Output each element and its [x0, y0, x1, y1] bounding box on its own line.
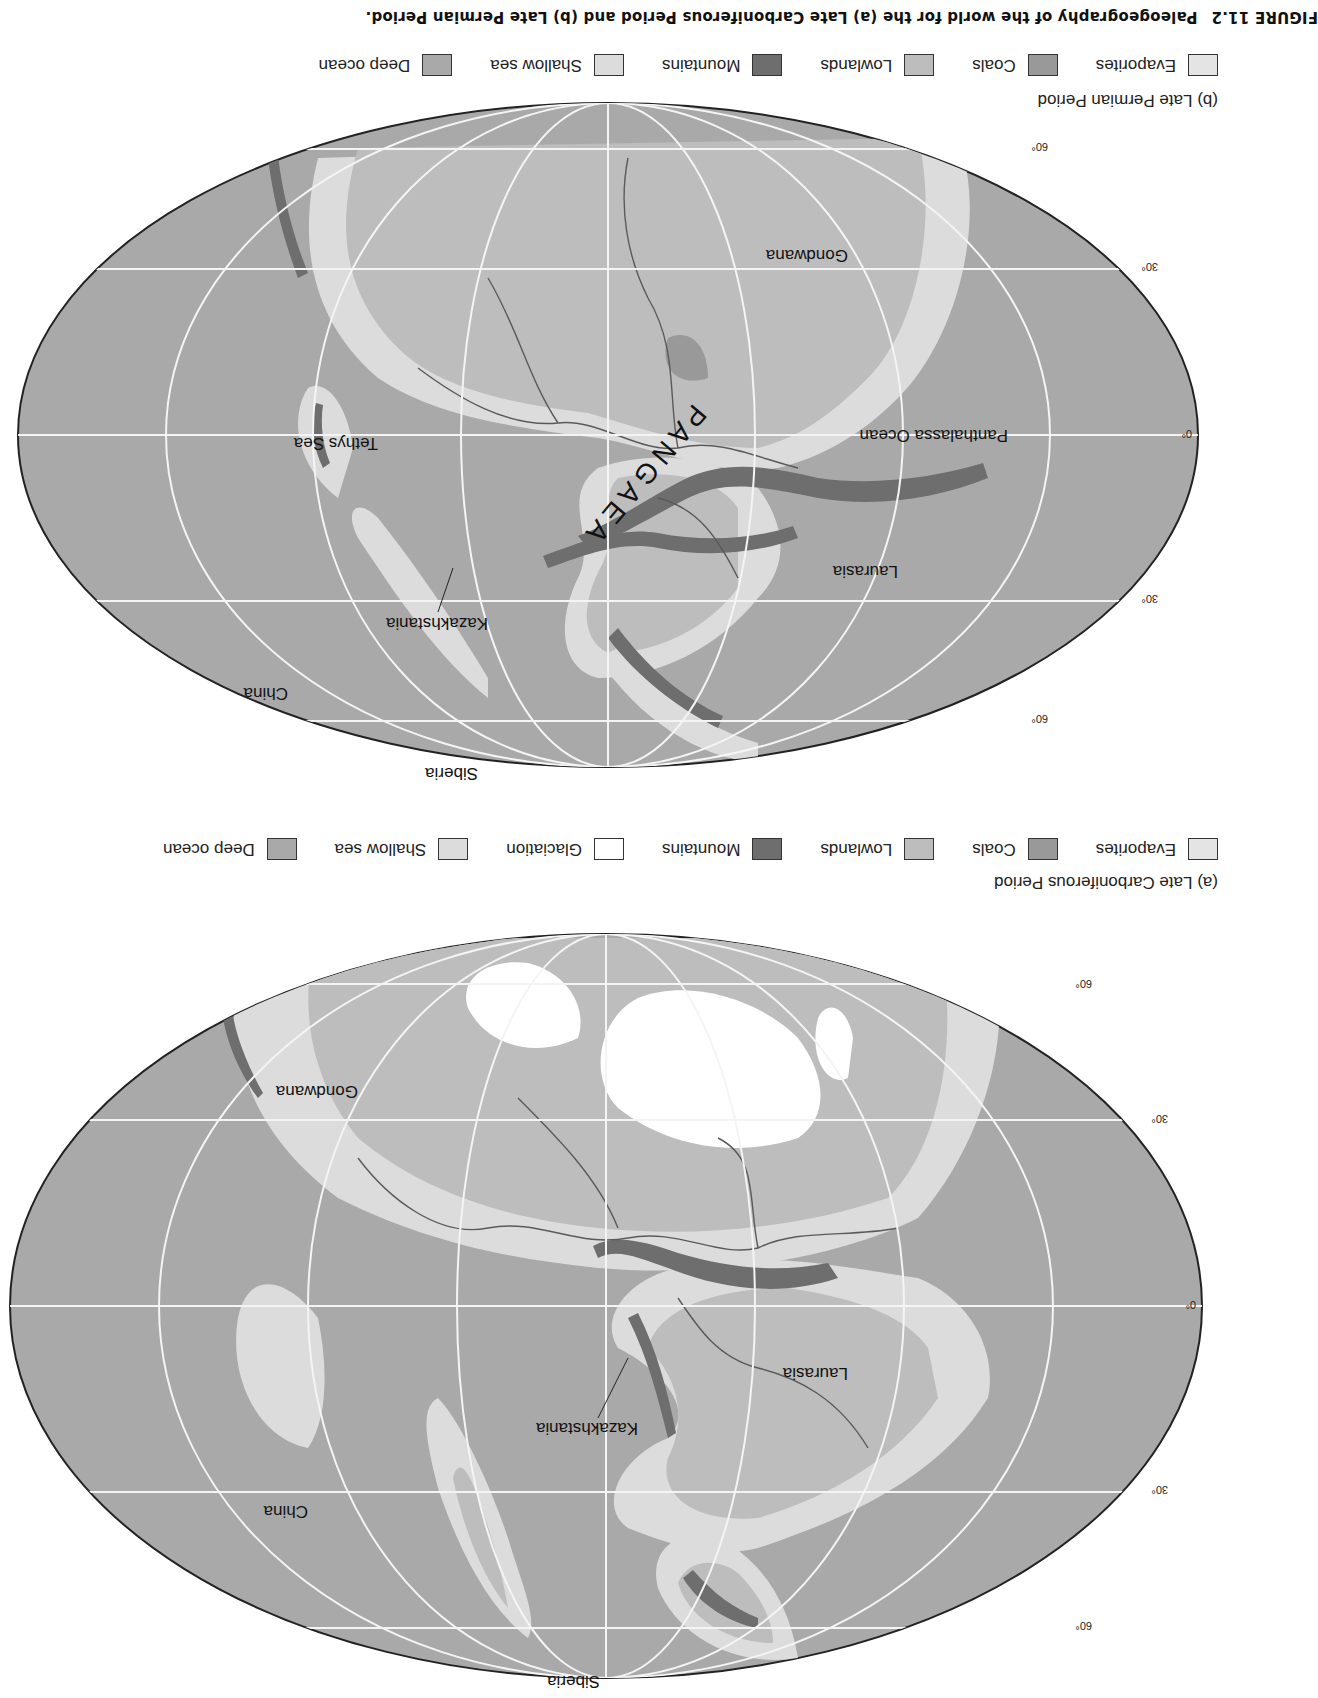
swatch-deep-ocean	[422, 54, 452, 76]
legend-item-evaporites: Evaporites	[1096, 838, 1218, 860]
legend-item-evaporites: Evaporites	[1096, 54, 1218, 76]
lat-label-30n: 30°	[1151, 1484, 1168, 1496]
lat-label-60s: 60°	[1031, 141, 1048, 153]
legend-label: Evaporites	[1096, 839, 1176, 859]
legend-item-glaciation: Glaciation	[506, 838, 624, 860]
legend-item-deep-ocean: Deep ocean	[163, 838, 297, 860]
legend-item-shallow-sea: Shallow sea	[490, 54, 624, 76]
legend-b: Evaporites Coals Lowlands Mountains Shal…	[281, 54, 1218, 76]
lat-label-60s: 60°	[1075, 978, 1092, 990]
lat-label-0: 0°	[1181, 428, 1192, 440]
label-siberia: Siberia	[547, 1672, 600, 1691]
legend-label: Evaporites	[1096, 55, 1176, 75]
label-china: China	[243, 684, 288, 703]
map-late-permian: 60° 30° 0° 30° 60° Siberia China Kazakhs…	[0, 78, 1318, 798]
lat-label-30s: 30°	[1151, 1113, 1168, 1125]
legend-label: Shallow sea	[490, 55, 582, 75]
legend-label: Coals	[972, 839, 1015, 859]
lat-label-30s: 30°	[1141, 261, 1158, 273]
legend-label: Mountains	[662, 55, 740, 75]
label-tethys-sea: Tethys Sea	[293, 434, 378, 453]
swatch-evaporites	[1188, 54, 1218, 76]
legend-a-title: (a) Late Carboniferous Period	[994, 872, 1218, 892]
legend-b-title: (b) Late Permian Period	[1038, 90, 1218, 110]
legend-item-mountains: Mountains	[662, 838, 782, 860]
label-gondwana: Gondwana	[765, 246, 848, 265]
swatch-lowlands	[904, 838, 934, 860]
figure-caption: FIGURE 11.2Paleogeography of the world f…	[365, 8, 1318, 26]
legend-label: Glaciation	[506, 839, 582, 859]
swatch-shallow-sea	[594, 54, 624, 76]
legend-label: Deep ocean	[319, 55, 411, 75]
lat-label-60n: 60°	[1031, 713, 1048, 725]
legend-label: Deep ocean	[163, 839, 255, 859]
legend-label: Mountains	[662, 839, 740, 859]
swatch-coals	[1028, 838, 1058, 860]
label-siberia: Siberia	[425, 764, 478, 783]
legend-label: Lowlands	[820, 839, 892, 859]
swatch-shallow-sea	[438, 838, 468, 860]
legend-label: Shallow sea	[335, 839, 427, 859]
figure-number: FIGURE 11.2	[1211, 8, 1318, 26]
legend-item-lowlands: Lowlands	[820, 838, 934, 860]
swatch-mountains	[752, 54, 782, 76]
legend-item-lowlands: Lowlands	[820, 54, 934, 76]
label-kazakhstania: Kazakhstania	[535, 1419, 638, 1438]
label-china: China	[263, 1502, 308, 1521]
map-late-carboniferous: 60° 30° 0° 30° 60° Siberia China Kazakhs…	[0, 898, 1318, 1698]
figure-page: 60° 30° 0° 30° 60° Siberia China Kazakhs…	[0, 0, 1318, 1698]
swatch-deep-ocean	[267, 838, 297, 860]
swatch-evaporites	[1188, 838, 1218, 860]
swatch-glaciation	[594, 838, 624, 860]
label-laurasia: Laurasia	[832, 562, 898, 581]
legend-item-coals: Coals	[972, 54, 1057, 76]
legend-label: Lowlands	[820, 55, 892, 75]
label-kazakhstania: Kazakhstania	[385, 614, 488, 633]
legend-a: Evaporites Coals Lowlands Mountains Glac…	[125, 838, 1218, 860]
swatch-lowlands	[904, 54, 934, 76]
lat-label-60n: 60°	[1075, 1620, 1092, 1632]
legend-item-coals: Coals	[972, 838, 1057, 860]
label-laurasia: Laurasia	[782, 1364, 848, 1383]
lat-label-30n: 30°	[1141, 593, 1158, 605]
swatch-coals	[1028, 54, 1058, 76]
legend-item-mountains: Mountains	[662, 54, 782, 76]
caption-text: Paleogeography of the world for the (a) …	[365, 8, 1197, 26]
swatch-mountains	[752, 838, 782, 860]
legend-item-deep-ocean: Deep ocean	[319, 54, 453, 76]
legend-label: Coals	[972, 55, 1015, 75]
legend-item-shallow-sea: Shallow sea	[335, 838, 469, 860]
lat-label-0: 0°	[1185, 1299, 1196, 1311]
label-gondwana: Gondwana	[275, 1082, 358, 1101]
label-panthalassa-ocean: Panthalassa Ocean	[860, 426, 1008, 445]
